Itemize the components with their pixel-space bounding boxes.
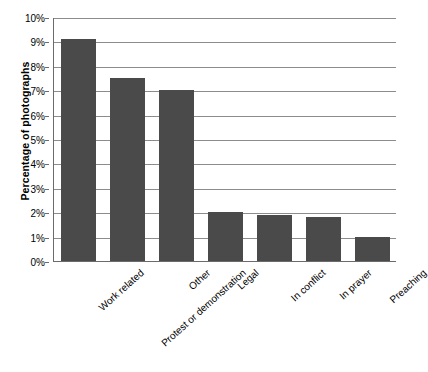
y-axis-tick-mark	[45, 42, 49, 43]
x-axis-tick-label: Other	[186, 267, 212, 292]
bar	[355, 237, 390, 261]
y-axis-tick-label: 7%	[31, 86, 45, 97]
y-axis-tick-mark	[45, 238, 49, 239]
bars-group	[54, 18, 396, 261]
y-axis-tick-mark	[45, 262, 49, 263]
y-axis-tick-label: 4%	[31, 159, 45, 170]
y-axis-tick-label: 10%	[25, 13, 45, 24]
plot-area	[53, 18, 396, 262]
y-axis-tick-mark	[45, 140, 49, 141]
y-axis-tick-label: 1%	[31, 232, 45, 243]
bar	[61, 39, 96, 261]
bar	[159, 90, 194, 261]
y-axis-tick-label: 3%	[31, 183, 45, 194]
y-axis-tick-mark	[45, 189, 49, 190]
x-axis-tick-label: In prayer	[337, 267, 374, 302]
y-axis-tick-label: 8%	[31, 61, 45, 72]
y-axis-tick-mark	[45, 164, 49, 165]
y-axis-tick-label: 5%	[31, 135, 45, 146]
x-axis-tick-label: Preaching	[387, 267, 428, 305]
bar	[257, 215, 292, 261]
y-axis-tick-mark	[45, 213, 49, 214]
x-axis-tick-labels: Work relatedProtest or demonstrationOthe…	[53, 263, 396, 372]
y-axis-tick-mark	[45, 91, 49, 92]
y-axis-tick-labels: 0%1%2%3%4%5%6%7%8%9%10%	[0, 18, 49, 262]
y-axis-tick-label: 2%	[31, 208, 45, 219]
bar	[208, 212, 243, 261]
y-axis-tick-label: 0%	[31, 257, 45, 268]
x-axis-tick-label: In conflict	[289, 267, 328, 303]
y-axis-tick-mark	[45, 67, 49, 68]
bar	[110, 78, 145, 261]
y-axis-tick-label: 9%	[31, 37, 45, 48]
bar	[306, 217, 341, 261]
y-axis-tick-mark	[45, 18, 49, 19]
x-axis-tick-label: Work related	[96, 267, 145, 313]
y-axis-tick-mark	[45, 116, 49, 117]
y-axis-tick-label: 6%	[31, 110, 45, 121]
